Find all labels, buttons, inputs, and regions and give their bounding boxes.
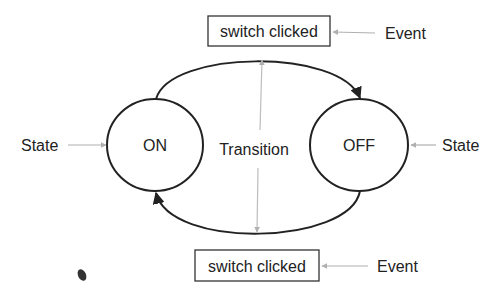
state-on: ON bbox=[107, 99, 203, 191]
state-diagram: ON OFF Transition switch clicked Event s… bbox=[0, 0, 496, 294]
transition-pointer-down bbox=[257, 168, 258, 232]
event-label-top: Event bbox=[385, 25, 426, 42]
transition-pointer-up bbox=[260, 60, 262, 130]
transition-on-to-off-arrow bbox=[156, 61, 360, 99]
event-box-bottom-label: switch clicked bbox=[208, 258, 306, 275]
event-box-top-label: switch clicked bbox=[220, 23, 318, 40]
state-label-left: State bbox=[21, 137, 58, 154]
transition-label: Transition bbox=[219, 141, 289, 158]
event-label-bottom: Event bbox=[377, 258, 418, 275]
state-on-label: ON bbox=[143, 137, 167, 154]
state-off-label: OFF bbox=[343, 137, 375, 154]
state-label-right: State bbox=[442, 137, 479, 154]
ink-blot bbox=[76, 268, 88, 282]
event-pointer-top bbox=[333, 32, 375, 33]
state-off: OFF bbox=[310, 99, 408, 191]
